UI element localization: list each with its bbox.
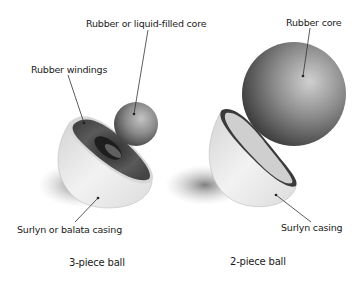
leader-casing-2p — [276, 195, 311, 222]
label-rubber-windings: Rubber windings — [31, 64, 107, 75]
label-rubber-core: Rubber core — [286, 17, 341, 28]
two-piece-ball — [165, 42, 346, 207]
label-liquid-core: Rubber or liquid-filled core — [86, 18, 206, 29]
rubber-core-sphere — [242, 42, 346, 146]
label-balata-casing: Surlyn or balata casing — [17, 224, 122, 235]
liquid-core-sphere — [114, 102, 158, 146]
three-piece-ball — [38, 102, 158, 208]
golf-ball-illustration — [0, 0, 362, 281]
caption-2-piece: 2-piece ball — [230, 256, 286, 267]
caption-3-piece: 3-piece ball — [69, 257, 125, 268]
leader-core-3p — [134, 30, 148, 114]
leader-windings — [68, 75, 84, 123]
label-surlyn-casing: Surlyn casing — [281, 222, 342, 233]
